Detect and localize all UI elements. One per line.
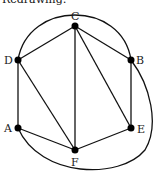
label-C: C: [71, 10, 79, 23]
label-E: E: [137, 123, 145, 136]
node-C: [72, 23, 79, 30]
label-F: F: [71, 156, 79, 169]
edge-C-B: [75, 26, 131, 60]
edge-C-E: [75, 26, 131, 128]
edge-F-E: [75, 128, 131, 150]
edge-C-D: [18, 26, 75, 60]
node-E: [128, 125, 135, 132]
node-D: [15, 57, 22, 64]
graph-diagram: C D B A E F: [0, 0, 154, 178]
node-A: [15, 125, 22, 132]
edge-A-F: [18, 128, 75, 150]
edge-A-B-arc: [18, 60, 152, 170]
label-B: B: [136, 54, 144, 67]
node-B: [128, 57, 135, 64]
node-F: [72, 147, 79, 154]
label-D: D: [4, 54, 13, 67]
edge-D-F: [18, 60, 75, 150]
label-A: A: [3, 122, 13, 135]
